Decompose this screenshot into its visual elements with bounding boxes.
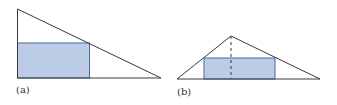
diagram-canvas <box>0 0 337 105</box>
inscribed-rectangle-a <box>18 43 90 78</box>
figure-b-label: (b) <box>177 86 191 97</box>
figure-a <box>18 9 162 78</box>
inscribed-rectangle-b <box>204 58 275 79</box>
figure-a-label: (a) <box>16 84 30 95</box>
figure-b <box>177 36 320 79</box>
